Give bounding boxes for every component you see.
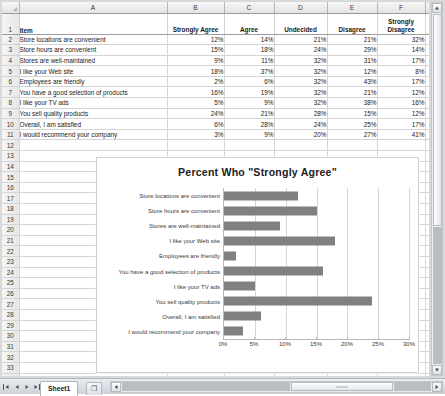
cell-a[interactable]: 6% xyxy=(224,76,274,87)
scroll-down-button[interactable] xyxy=(432,365,442,375)
first-sheet-button[interactable] xyxy=(3,383,10,391)
cell-g[interactable] xyxy=(425,129,429,140)
cell-d[interactable]: 29% xyxy=(327,45,377,56)
cell-empty[interactable] xyxy=(425,288,429,299)
cell-a[interactable]: 28% xyxy=(224,119,274,130)
cell-u[interactable]: 32% xyxy=(274,66,327,77)
cell-d[interactable]: 38% xyxy=(327,98,377,109)
row-header-21[interactable]: 21 xyxy=(2,235,19,246)
next-sheet-button[interactable] xyxy=(23,383,30,391)
row-header-18[interactable]: 18 xyxy=(2,204,19,215)
scroll-left-button[interactable] xyxy=(111,382,121,392)
row-header-20[interactable]: 20 xyxy=(2,225,19,236)
scroll-up-button[interactable] xyxy=(432,3,442,13)
cell-g[interactable] xyxy=(425,55,429,66)
cell-g[interactable] xyxy=(425,34,429,45)
cell-empty[interactable] xyxy=(425,246,429,257)
cell-d[interactable]: 27% xyxy=(327,129,377,140)
select-all-corner[interactable] xyxy=(2,2,19,13)
cell-sd[interactable]: 8% xyxy=(377,66,425,77)
cell-d[interactable]: 21% xyxy=(327,34,377,45)
column-header-b[interactable]: B xyxy=(167,2,224,13)
cell-sa[interactable]: 15% xyxy=(167,45,224,56)
cell-g[interactable] xyxy=(425,119,429,130)
cell-sd[interactable]: 17% xyxy=(377,119,425,130)
cell-e1-disagree-header[interactable]: Disagree xyxy=(327,13,377,34)
cell-a1-item-header[interactable]: Item xyxy=(19,13,167,34)
last-sheet-button[interactable] xyxy=(33,383,40,391)
row-header-2[interactable]: 2 xyxy=(2,34,19,45)
column-header-c[interactable]: C xyxy=(224,2,274,13)
cell-empty[interactable] xyxy=(425,193,429,204)
cell-empty[interactable] xyxy=(19,140,167,151)
cell-empty[interactable] xyxy=(425,267,429,278)
row-header-6[interactable]: 6 xyxy=(2,76,19,87)
cell-sa[interactable]: 24% xyxy=(167,108,224,119)
cell-a[interactable]: 21% xyxy=(224,108,274,119)
cell-d[interactable]: 15% xyxy=(327,108,377,119)
vertical-scrollbar[interactable] xyxy=(431,2,443,376)
row-header-22[interactable]: 22 xyxy=(2,246,19,257)
cell-g1[interactable] xyxy=(425,13,429,34)
cell-item[interactable]: Overall, I am satisfied xyxy=(19,119,167,130)
cell-d1-undecided-header[interactable]: Undecided xyxy=(274,13,327,34)
previous-sheet-button[interactable] xyxy=(13,383,20,391)
horizontal-scrollbar[interactable] xyxy=(110,381,443,393)
row-header-28[interactable]: 28 xyxy=(2,309,19,320)
row-header-13[interactable]: 13 xyxy=(2,151,19,162)
cell-d[interactable]: 25% xyxy=(327,119,377,130)
cell-g[interactable] xyxy=(425,108,429,119)
cell-sd[interactable]: 12% xyxy=(377,108,425,119)
cell-empty[interactable] xyxy=(425,214,429,225)
cell-d[interactable]: 21% xyxy=(327,87,377,98)
column-header-f[interactable]: F xyxy=(377,2,425,13)
cell-empty[interactable] xyxy=(425,235,429,246)
row-header-1[interactable]: 1 xyxy=(2,13,19,34)
row-header-9[interactable]: 9 xyxy=(2,108,19,119)
row-header-19[interactable]: 19 xyxy=(2,214,19,225)
cell-empty[interactable] xyxy=(224,140,274,151)
row-header-5[interactable]: 5 xyxy=(2,66,19,77)
vertical-scroll-track[interactable] xyxy=(433,227,442,364)
row-header-33[interactable]: 33 xyxy=(2,362,19,373)
cell-a[interactable]: 14% xyxy=(224,34,274,45)
row-header-15[interactable]: 15 xyxy=(2,172,19,183)
row-header-30[interactable]: 30 xyxy=(2,331,19,342)
cell-empty[interactable] xyxy=(425,309,429,320)
scroll-right-button[interactable] xyxy=(432,382,442,392)
cell-sd[interactable]: 32% xyxy=(377,34,425,45)
cell-g[interactable] xyxy=(425,98,429,109)
column-header-g[interactable]: G xyxy=(425,2,429,13)
cell-item[interactable]: Employees are friendly xyxy=(19,76,167,87)
cell-empty[interactable] xyxy=(425,320,429,331)
cell-c1-agree-header[interactable]: Agree xyxy=(224,13,274,34)
row-header-12[interactable]: 12 xyxy=(2,140,19,151)
row-header-32[interactable]: 32 xyxy=(2,352,19,363)
cell-d[interactable]: 12% xyxy=(327,66,377,77)
cell-empty[interactable] xyxy=(377,140,425,151)
cell-empty[interactable] xyxy=(425,362,429,373)
cell-empty[interactable] xyxy=(425,352,429,363)
cell-item[interactable]: You sell quality products xyxy=(19,108,167,119)
cell-g[interactable] xyxy=(425,45,429,56)
row-header-8[interactable]: 8 xyxy=(2,98,19,109)
row-header-27[interactable]: 27 xyxy=(2,299,19,310)
cell-sa[interactable]: 12% xyxy=(167,34,224,45)
cell-a[interactable]: 9% xyxy=(224,129,274,140)
cell-item[interactable]: You have a good selection of products xyxy=(19,87,167,98)
cell-sa[interactable]: 9% xyxy=(167,55,224,66)
cell-empty[interactable] xyxy=(425,278,429,289)
row-header-25[interactable]: 25 xyxy=(2,278,19,289)
cell-u[interactable]: 24% xyxy=(274,119,327,130)
cell-u[interactable]: 20% xyxy=(274,129,327,140)
cell-a[interactable]: 18% xyxy=(224,45,274,56)
cell-u[interactable]: 28% xyxy=(274,108,327,119)
column-header-a[interactable]: A xyxy=(19,2,167,13)
cell-u[interactable]: 32% xyxy=(274,76,327,87)
cell-empty[interactable] xyxy=(425,225,429,236)
cell-empty[interactable] xyxy=(425,172,429,183)
cell-item[interactable]: Store hours are convenient xyxy=(19,45,167,56)
cell-sa[interactable]: 6% xyxy=(167,119,224,130)
row-header-14[interactable]: 14 xyxy=(2,161,19,172)
row-header-23[interactable]: 23 xyxy=(2,256,19,267)
